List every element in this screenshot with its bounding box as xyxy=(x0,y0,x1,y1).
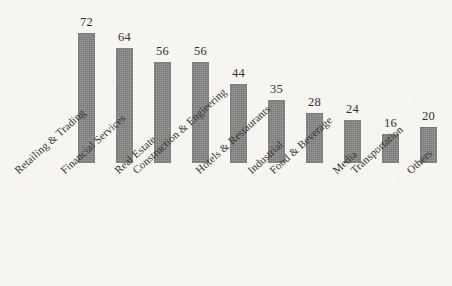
bar-value-label: 28 xyxy=(308,95,321,110)
bar-value-label: 56 xyxy=(156,44,169,59)
bar-value-label: 72 xyxy=(80,15,93,30)
bar-group: 64 xyxy=(116,48,133,163)
bar-rect xyxy=(116,48,133,163)
bar-chart-figure: 72645656443528241620 Retailing & Trading… xyxy=(0,0,452,286)
bar-value-label: 56 xyxy=(194,44,207,59)
bar-value-label: 20 xyxy=(422,109,435,124)
bar-value-label: 44 xyxy=(232,66,245,81)
plot-area: 72645656443528241620 Retailing & Trading… xyxy=(0,0,452,286)
bar-value-label: 35 xyxy=(270,82,283,97)
bar-value-label: 24 xyxy=(346,102,359,117)
bar-value-label: 64 xyxy=(118,30,131,45)
